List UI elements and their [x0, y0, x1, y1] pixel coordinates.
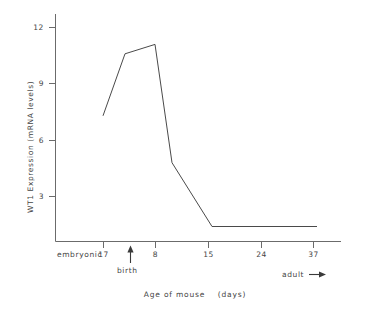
chart-figure: WT1 Expression (mRNA levels) 12 9 6 3 em… [0, 0, 365, 311]
x-axis-title: Age of mouse (days) [105, 290, 285, 299]
x-tick-label-17: 17 [93, 250, 114, 259]
birth-arrow-icon [127, 246, 133, 264]
x-tick-label-37: 37 [303, 250, 324, 259]
x-tick-label-24: 24 [251, 250, 272, 259]
data-series-line [103, 44, 317, 226]
adult-annotation-label: adult [282, 270, 304, 279]
y-tick-label-6: 6 [26, 136, 44, 145]
y-tick-label-3: 3 [26, 192, 44, 201]
x-tick-label-15: 15 [198, 250, 219, 259]
x-tick-label-8: 8 [145, 250, 166, 259]
chart-plot-area [0, 0, 365, 311]
y-tick-label-9: 9 [26, 79, 44, 88]
birth-annotation-label: birth [117, 266, 138, 275]
y-tick-label-12: 12 [26, 23, 44, 32]
adult-arrow-icon [309, 271, 326, 277]
